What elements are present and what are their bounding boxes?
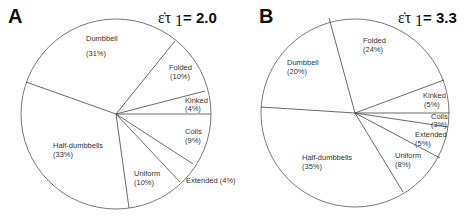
condition-value-b: = 3.3 <box>423 9 457 26</box>
slice-pct-kinked-b: (5%) <box>424 100 440 109</box>
slice-pct-coils-b: (3%) <box>431 120 447 129</box>
pie-chart-b: B ε̇τ 1 = 3.3 Dumbbell (20%) Folded (24%… <box>259 5 457 207</box>
condition-symbol-b: ε̇τ <box>398 9 412 26</box>
slice-label-folded-a: Folded <box>169 63 192 72</box>
slice-label-extended-b: Extended <box>415 130 447 139</box>
condition-subscript-a: 1 <box>175 12 183 29</box>
panel-letter-b: B <box>259 5 273 27</box>
condition-label-a: ε̇τ 1 = 2.0 <box>158 9 217 29</box>
slice-pct-uniform-b: (8%) <box>395 160 411 169</box>
slice-label-uniform-b: Uniform <box>395 151 421 160</box>
slice-label-half-dumbbells-b: Half-dumbbells <box>302 153 352 162</box>
condition-value-a: = 2.0 <box>183 9 217 26</box>
slice-pct-half-dumbbells-a: (33%) <box>53 150 74 159</box>
slice-pct-coils-a: (9%) <box>185 136 201 145</box>
slice-label-uniform-a: Uniform <box>134 169 160 178</box>
slice-pct-uniform-a: (10%) <box>134 178 155 187</box>
slice-label-kinked-b: Kinked <box>423 91 446 100</box>
slice-pct-dumbbell-a: (31%) <box>86 49 107 58</box>
slice-label-folded-b: Folded <box>363 36 386 45</box>
pie-chart-a: A ε̇τ 1 = 2.0 Dumbbell (31%) Folded (10%… <box>8 5 236 209</box>
slice-pct-extended-b: (5%) <box>415 139 431 148</box>
slice-label-dumbbell-a: Dumbbell <box>86 34 118 43</box>
slice-label-dumbbell-b: Dumbbell <box>287 58 319 67</box>
slice-pct-folded-b: (24%) <box>363 45 384 54</box>
condition-symbol-a: ε̇τ <box>158 9 172 26</box>
condition-subscript-b: 1 <box>415 12 423 29</box>
condition-label-b: ε̇τ 1 = 3.3 <box>398 9 457 29</box>
slice-pct-folded-a: (10%) <box>170 72 191 81</box>
panel-letter-a: A <box>8 5 22 27</box>
slice-pct-dumbbell-b: (20%) <box>287 67 308 76</box>
slice-label-extended-a: Extended (4%) <box>186 176 236 185</box>
slice-pct-kinked-a: (4%) <box>185 104 201 113</box>
slice-label-half-dumbbells-a: Half-dumbbells <box>53 141 103 150</box>
slice-pct-half-dumbbells-b: (35%) <box>302 162 323 171</box>
slice-label-coils-a: Coils <box>185 127 202 136</box>
figure: A ε̇τ 1 = 2.0 Dumbbell (31%) Folded (10%… <box>0 0 472 216</box>
